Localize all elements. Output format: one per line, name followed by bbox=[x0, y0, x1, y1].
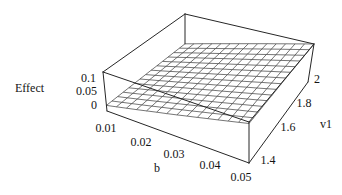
z-tick-min: 0 bbox=[91, 99, 97, 111]
y-tick-1: 1.6 bbox=[281, 121, 296, 133]
x-axis-title: b bbox=[154, 162, 160, 174]
x-tick-4: 0.05 bbox=[231, 171, 252, 183]
z-axis-title: Effect bbox=[15, 82, 44, 94]
plot3d-canvas bbox=[0, 0, 342, 195]
y-tick-3: 2 bbox=[314, 73, 320, 85]
x-tick-0: 0.01 bbox=[96, 122, 117, 134]
z-tick-max: 0.1 bbox=[81, 72, 96, 84]
surface-plot-figure: Effect 0.1 0.05 0 0.01 0.02 0.03 0.04 0.… bbox=[0, 0, 342, 195]
x-tick-3: 0.04 bbox=[200, 159, 221, 171]
z-tick-mid: 0.05 bbox=[76, 85, 97, 97]
y-tick-2: 1.8 bbox=[297, 97, 312, 109]
x-tick-2: 0.03 bbox=[164, 148, 185, 160]
x-tick-1: 0.02 bbox=[131, 136, 152, 148]
y-axis-title: v1 bbox=[320, 118, 332, 130]
y-tick-0: 1.4 bbox=[261, 154, 276, 166]
